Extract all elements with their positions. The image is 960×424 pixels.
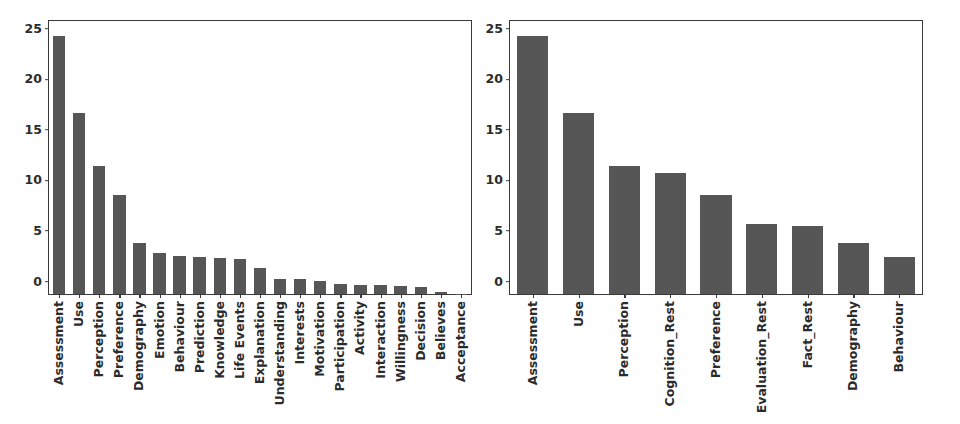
bar-cell: [739, 21, 785, 294]
x-tick-label: Understanding: [274, 301, 287, 405]
x-tick-label: Decision: [414, 301, 427, 361]
x-tick-label: Perception: [618, 301, 631, 377]
bar-cell: [69, 21, 89, 294]
bar-cell: [785, 21, 831, 294]
x-tick-label: Activity: [354, 301, 367, 355]
x-tick: Decision: [411, 294, 431, 423]
x-tick: Interests: [290, 294, 310, 423]
bar-cell: [170, 21, 190, 294]
y-tick-label: 20: [486, 73, 510, 86]
y-tick-label: 25: [486, 22, 510, 35]
x-tick: Demography: [830, 294, 876, 423]
x-axis-left: AssessmentUsePerceptionPreferenceDemogra…: [49, 294, 471, 423]
bar: [792, 226, 823, 294]
bar-cell: [190, 21, 210, 294]
x-tick: Demography: [129, 294, 149, 423]
bar-cell: [876, 21, 922, 294]
x-tick: Activity: [350, 294, 370, 423]
bar: [655, 173, 686, 294]
bar-series-right: [510, 21, 922, 294]
bar: [53, 36, 65, 294]
x-tick-label: Behaviour: [893, 301, 906, 372]
x-tick-label: Willingness: [394, 301, 407, 382]
bar-cell: [371, 21, 391, 294]
bar-cell: [330, 21, 350, 294]
x-tick-label: Prediction: [193, 301, 206, 373]
y-tick-label: 15: [25, 124, 49, 137]
x-tick-label: Interests: [294, 301, 307, 365]
y-tick-label: 0: [33, 275, 49, 288]
x-tick: Fact_Rest: [785, 294, 831, 423]
y-tick-label: 5: [494, 225, 510, 238]
bar-cell: [149, 21, 169, 294]
x-tick-label: Perception: [93, 301, 106, 377]
x-tick-label: Motivation: [314, 301, 327, 377]
x-tick-label: Behaviour: [173, 301, 186, 372]
bar: [563, 113, 594, 294]
x-tick-label: Acceptance: [455, 301, 468, 382]
x-tick: Motivation: [310, 294, 330, 423]
bar: [173, 256, 185, 294]
y-tick-label: 0: [494, 275, 510, 288]
x-tick-label: Assessment: [53, 301, 66, 385]
chart-panel-right: 0510152025 AssessmentUsePerceptionCognit…: [480, 0, 960, 424]
bar-cell: [129, 21, 149, 294]
x-tick: Evaluation_Rest: [739, 294, 785, 423]
x-tick-label: Demography: [847, 301, 860, 391]
chart-panel-left: 0510152025 AssessmentUsePerceptionPrefer…: [0, 0, 480, 424]
x-tick-label: Knowledge: [214, 301, 227, 379]
x-tick: Perception: [602, 294, 648, 423]
x-tick: Prediction: [190, 294, 210, 423]
bar: [234, 259, 246, 294]
bar: [153, 253, 165, 294]
bar: [314, 281, 326, 294]
bar-series-left: [49, 21, 471, 294]
bar: [334, 284, 346, 294]
x-tick: Assessment: [510, 294, 556, 423]
bar-cell: [830, 21, 876, 294]
x-tick: Emotion: [149, 294, 169, 423]
bar-cell: [230, 21, 250, 294]
bar: [214, 258, 226, 294]
y-tick-label: 5: [33, 225, 49, 238]
x-tick-label: Believes: [435, 301, 448, 360]
x-tick: Life Events: [230, 294, 250, 423]
x-tick-label: Fact_Rest: [801, 301, 814, 368]
x-tick-label: Interaction: [374, 301, 387, 379]
bar-cell: [89, 21, 109, 294]
x-tick-label: Life Events: [234, 301, 247, 379]
bar: [274, 279, 286, 294]
x-tick-label: Preference: [113, 301, 126, 378]
x-tick: Use: [69, 294, 89, 423]
x-tick: Cognition_Rest: [647, 294, 693, 423]
bar-cell: [556, 21, 602, 294]
bar: [113, 195, 125, 294]
bar: [609, 166, 640, 294]
bar-cell: [411, 21, 431, 294]
x-tick: Explanation: [250, 294, 270, 423]
bar: [517, 36, 548, 294]
bar-cell: [109, 21, 129, 294]
x-tick-label: Emotion: [153, 301, 166, 359]
x-tick: Preference: [109, 294, 129, 423]
bar-cell: [290, 21, 310, 294]
x-tick: Interaction: [371, 294, 391, 423]
bar: [394, 286, 406, 294]
bar-cell: [350, 21, 370, 294]
bar-cell: [310, 21, 330, 294]
plot-area-left: 0510152025 AssessmentUsePerceptionPrefer…: [48, 20, 472, 295]
x-tick-label: Evaluation_Rest: [756, 301, 769, 413]
bar-cell: [250, 21, 270, 294]
y-tick-label: 15: [486, 124, 510, 137]
x-tick: Willingness: [391, 294, 411, 423]
x-tick: Behaviour: [170, 294, 190, 423]
bar-cell: [210, 21, 230, 294]
bar: [700, 195, 731, 294]
bar-cell: [270, 21, 290, 294]
bar: [746, 224, 777, 294]
x-tick-label: Preference: [710, 301, 723, 378]
x-tick: Behaviour: [876, 294, 922, 423]
x-tick: Participation: [330, 294, 350, 423]
bar-cell: [693, 21, 739, 294]
x-tick-label: Use: [572, 301, 585, 327]
